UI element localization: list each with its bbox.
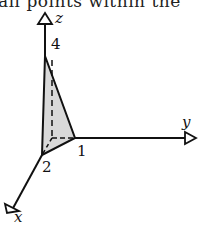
x-axis: [12, 155, 42, 210]
vertex-label-2: 2: [42, 158, 52, 176]
y-axis-arrow-icon: [185, 132, 196, 144]
tetrahedron-diagram: z y x 4 1 2: [0, 0, 203, 228]
z-axis-label: z: [54, 9, 63, 27]
y-axis-label: y: [181, 113, 191, 131]
vertex-label-1: 1: [77, 142, 87, 160]
x-axis-label: x: [14, 208, 23, 226]
z-axis-arrow-icon: [38, 13, 52, 24]
shaded-face: [42, 56, 75, 155]
vertex-label-4: 4: [51, 35, 61, 53]
